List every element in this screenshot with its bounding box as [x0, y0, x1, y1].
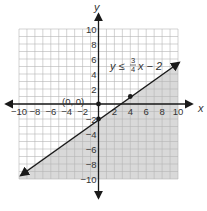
inequality-graph: −10−8−6−4−2246810 108642−2−4−6−8−10 x y …	[0, 0, 207, 211]
x-tick-label: −6	[45, 106, 56, 117]
x-tick-label: 8	[159, 106, 164, 117]
y-tick-label: 6	[91, 54, 96, 65]
x-tick-label: −10	[11, 106, 27, 117]
y-tick-label: −10	[80, 174, 96, 185]
y-tick-label: 8	[91, 39, 96, 50]
origin-point-label: (0, 0)	[62, 96, 84, 107]
plotted-point	[96, 102, 101, 107]
x-tick-label: 4	[128, 106, 133, 117]
x-axis-label: x	[197, 102, 204, 114]
x-tick-label: −8	[29, 106, 40, 117]
y-tick-label: 2	[91, 84, 96, 95]
fraction-numerator: 3	[131, 56, 135, 65]
equation-suffix: x − 2	[137, 60, 162, 72]
y-tick-label: −4	[86, 129, 97, 140]
x-tick-label: −4	[61, 106, 72, 117]
y-axis-label: y	[93, 1, 101, 13]
equation-prefix: y ≤	[109, 60, 125, 72]
x-tick-label: 10	[173, 106, 184, 117]
fraction-denominator: 4	[131, 65, 135, 74]
y-tick-label: 4	[91, 69, 96, 80]
x-tick-label: 6	[144, 106, 149, 117]
plotted-point	[128, 94, 133, 99]
y-tick-label: 10	[86, 24, 97, 35]
plotted-point	[96, 117, 101, 122]
y-tick-label: −8	[86, 159, 97, 170]
y-tick-label: −6	[86, 144, 97, 155]
